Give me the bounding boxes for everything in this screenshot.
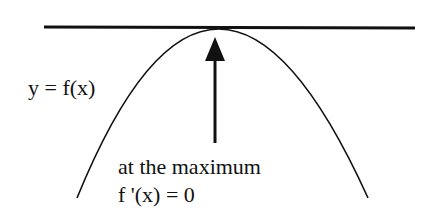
tangent-line (44, 27, 415, 28)
annotation-line-1: at the maximum (118, 155, 261, 179)
annotation-line-2: f '(x) = 0 (118, 183, 195, 207)
diagram-canvas (0, 0, 432, 222)
curve-label: y = f(x) (28, 76, 95, 100)
arrow-up-icon (205, 37, 225, 61)
